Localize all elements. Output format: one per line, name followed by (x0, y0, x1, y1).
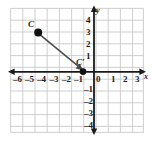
x-tick-label-1: 1 (111, 75, 116, 84)
point-c-label: C (28, 20, 34, 29)
x-tick-label--3: –3 (50, 75, 59, 84)
y-tick-label--1: –1 (84, 85, 93, 94)
y-tick-label-2: 2 (86, 40, 91, 49)
x-tick-label--2: –2 (62, 75, 71, 84)
graph-svg (0, 0, 152, 144)
y-tick-label-4: 4 (86, 16, 91, 25)
x-axis-label: x (144, 73, 148, 81)
y-tick-label-3: 3 (86, 28, 91, 37)
y-tick-label--3: –3 (84, 109, 93, 118)
x-tick-label-3: 3 (135, 75, 140, 84)
x-tick-label-2: 2 (123, 75, 128, 84)
coordinate-plane-figure: –6 –5 –4 –3 –2 –1 0 1 2 3 4 3 2 1 –1 –2 … (0, 0, 152, 144)
y-tick-label--4: –4 (84, 121, 93, 130)
origin-label: 0 (96, 75, 101, 84)
y-axis-label: y (96, 7, 100, 15)
point-c-marker (34, 29, 42, 37)
point-c-prime-label: C′ (76, 58, 85, 67)
y-tick-label-1: 1 (86, 52, 91, 61)
x-tick-label--4: –4 (37, 75, 46, 84)
x-tick-label--6: –6 (13, 75, 22, 84)
x-tick-label--1: –1 (74, 75, 83, 84)
y-tick-label--2: –2 (84, 97, 93, 106)
x-tick-label--5: –5 (25, 75, 34, 84)
